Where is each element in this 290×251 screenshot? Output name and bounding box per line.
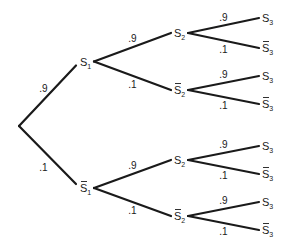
probability-label: .9 (39, 83, 48, 94)
node-label: S2 (174, 210, 185, 224)
node-label: S3 (262, 224, 273, 238)
probability-label: .1 (128, 79, 137, 90)
node-root-1-1-2: S3 (262, 42, 273, 57)
probability-label: .9 (219, 139, 228, 150)
node-root-1: S1 (80, 56, 91, 70)
node-root-1-1: S2 (174, 27, 185, 41)
probability-tree: .9S1.9S2.9S3.1S3.1S2.9S3.1S3.1S1.9S2.9S3… (0, 0, 290, 251)
node-root-1-2: S2 (174, 84, 185, 99)
edge-root-2 (19, 126, 76, 184)
node-label: S3 (262, 98, 273, 112)
probability-label: .9 (128, 33, 137, 44)
probability-label: .1 (219, 100, 228, 111)
probability-label: .9 (219, 195, 228, 206)
node-label: S3 (262, 140, 273, 154)
probability-label: .1 (39, 162, 48, 173)
node-label: S3 (262, 42, 273, 56)
probability-label: .1 (219, 44, 228, 55)
probability-label: .9 (219, 69, 228, 80)
probability-label: .1 (219, 226, 228, 237)
node-label: S2 (174, 27, 185, 41)
node-root-2-1-2: S3 (262, 168, 273, 183)
probability-label: .1 (219, 170, 228, 181)
node-label: S2 (174, 84, 185, 98)
node-root-2-2: S2 (174, 210, 185, 225)
edge-root-1 (19, 66, 76, 127)
node-label: S1 (80, 182, 91, 196)
node-label: S3 (262, 70, 273, 84)
node-root-2-2-2: S3 (262, 224, 273, 239)
node-label: S3 (262, 12, 273, 26)
node-root-2: S1 (80, 182, 91, 197)
probability-label: .9 (219, 12, 228, 23)
node-label: S1 (80, 56, 91, 70)
node-label: S3 (262, 196, 273, 210)
probability-label: .1 (128, 205, 137, 216)
probability-label: .9 (128, 160, 137, 171)
node-root-2-1: S2 (174, 154, 185, 168)
node-root-1-1-1: S3 (262, 12, 273, 26)
node-root-2-1-1: S3 (262, 140, 273, 154)
node-root-2-2-1: S3 (262, 196, 273, 210)
node-root-1-2-1: S3 (262, 70, 273, 84)
node-label: S2 (174, 154, 185, 168)
node-label: S3 (262, 168, 273, 182)
node-root-1-2-2: S3 (262, 98, 273, 113)
